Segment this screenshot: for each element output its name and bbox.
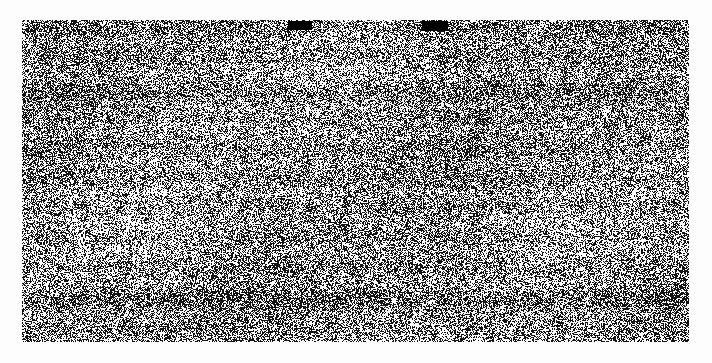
scanned-document-page: Heavily degraded scanned page: dense ran…	[0, 0, 712, 363]
scanned-page-body	[22, 20, 689, 342]
dither-noise-canvas	[22, 20, 689, 342]
redaction-bar-2	[422, 21, 448, 31]
redaction-bar-1	[288, 21, 312, 30]
